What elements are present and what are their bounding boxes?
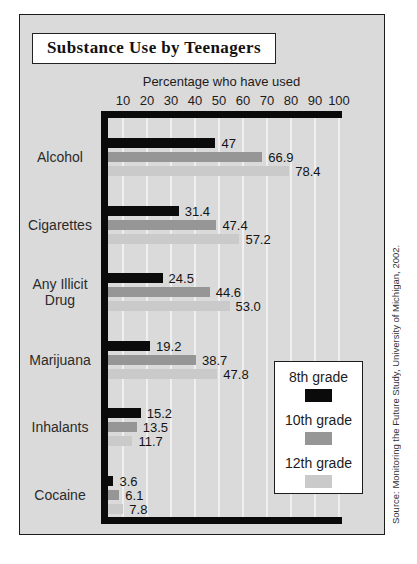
source-note: Source: Monitoring the Future Study, Uni…: [390, 220, 404, 524]
bar: [108, 504, 123, 514]
axis-line-bottom: [101, 517, 342, 524]
category-label: Marijuana: [21, 341, 99, 379]
bar: [108, 476, 113, 486]
bar: [108, 138, 215, 148]
legend-label: 10th grade: [285, 412, 352, 428]
gridline: [218, 118, 220, 517]
bar: [108, 408, 141, 418]
bar: [108, 490, 119, 500]
gridline: [266, 118, 268, 517]
x-axis-tick-label: 80: [279, 93, 303, 108]
bar: [108, 422, 137, 432]
bar-value-label: 3.6: [119, 475, 137, 488]
bar: [108, 220, 216, 230]
bar: [108, 152, 262, 162]
category-label: Any Illicit Drug: [21, 273, 99, 311]
bar: [108, 436, 132, 446]
gridline: [146, 118, 148, 517]
bar-value-label: 6.1: [125, 489, 143, 502]
bar-value-label: 47.8: [223, 368, 248, 381]
x-axis-tick-label: 50: [207, 93, 231, 108]
bar: [108, 273, 163, 283]
x-axis-tick-label: 40: [183, 93, 207, 108]
bar: [108, 206, 179, 216]
bar-value-label: 11.7: [138, 435, 162, 448]
bar-value-label: 38.7: [202, 354, 227, 367]
gridline: [170, 118, 172, 517]
bar-value-label: 15.2: [147, 407, 172, 420]
chart-title: Substance Use by Teenagers: [32, 33, 276, 64]
x-axis-tick-row: 102030405060708090100: [111, 93, 351, 108]
bar-value-label: 44.6: [216, 286, 241, 299]
bar-value-label: 24.5: [169, 272, 194, 285]
x-axis-tick-label: 30: [159, 93, 183, 108]
bar-value-label: 19.2: [156, 340, 181, 353]
x-axis-tick-label: 90: [303, 93, 327, 108]
bar: [108, 287, 210, 297]
gridline: [194, 118, 196, 517]
legend-item: 8th grade: [289, 369, 348, 402]
category-label: Inhalants: [21, 408, 99, 446]
bar-value-label: 53.0: [236, 300, 261, 313]
bar-value-label: 7.8: [129, 503, 147, 516]
x-axis-tick-label: 10: [111, 93, 135, 108]
bar: [108, 355, 196, 365]
bar-value-label: 47.4: [222, 219, 247, 232]
chart-figure: Substance Use by Teenagers Percentage wh…: [19, 14, 385, 535]
bar: [108, 341, 150, 351]
bar-value-label: 57.2: [245, 233, 270, 246]
bar-value-label: 47: [221, 137, 235, 150]
x-axis-title: Percentage who have used: [101, 74, 342, 89]
legend-label: 12th grade: [285, 455, 352, 471]
x-axis-tick-label: 100: [327, 93, 351, 108]
category-label: Cocaine: [21, 476, 99, 514]
axis-line-left: [101, 111, 108, 524]
category-label: Alcohol: [21, 138, 99, 176]
legend-item: 10th grade: [285, 412, 352, 445]
legend-label: 8th grade: [289, 369, 348, 385]
x-axis-tick-label: 70: [255, 93, 279, 108]
category-label: Cigarettes: [21, 206, 99, 244]
legend-swatch: [305, 475, 332, 488]
legend-box: 8th grade10th grade12th grade: [274, 361, 363, 494]
bar-value-label: 78.4: [295, 165, 320, 178]
x-axis-tick-label: 60: [231, 93, 255, 108]
bar-value-label: 13.5: [143, 421, 168, 434]
bar: [108, 166, 289, 176]
legend-item: 12th grade: [285, 455, 352, 488]
bar: [108, 301, 230, 311]
legend-swatch: [305, 432, 332, 445]
bar: [108, 369, 217, 379]
bar-value-label: 66.9: [268, 151, 293, 164]
gridline: [122, 118, 124, 517]
gridline: [242, 118, 244, 517]
legend-swatch: [305, 389, 332, 402]
bar-value-label: 31.4: [185, 205, 210, 218]
axis-line-top: [101, 111, 342, 118]
page: Substance Use by Teenagers Percentage wh…: [0, 0, 417, 564]
bar: [108, 234, 239, 244]
x-axis-tick-label: 20: [135, 93, 159, 108]
